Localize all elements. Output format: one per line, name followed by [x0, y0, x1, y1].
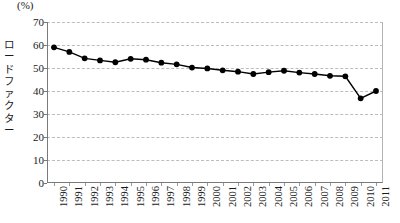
data-point-marker: [143, 57, 149, 63]
x-tick-label: 2005: [288, 186, 299, 207]
load-factor-line-chart: (%) ロードファクター 010203040506070 19901991199…: [0, 0, 400, 223]
data-point-marker: [97, 58, 103, 64]
data-point-marker: [128, 56, 134, 62]
data-point-marker: [266, 69, 272, 75]
x-tick-label: 1992: [89, 186, 100, 207]
x-tick-label: 1996: [150, 186, 161, 207]
x-tick-label: 2000: [211, 186, 222, 207]
x-tick-label: 2011: [380, 186, 391, 207]
x-tick-label: 2003: [257, 186, 268, 207]
x-tick-label: 1997: [165, 186, 176, 207]
data-point-marker: [327, 73, 333, 79]
x-tick-label: 1990: [58, 186, 69, 207]
y-tick-label: 30: [20, 108, 44, 120]
y-axis-title-char: ク: [1, 99, 17, 111]
y-axis-title-char: ロ: [1, 38, 17, 50]
data-point-marker: [312, 71, 318, 77]
y-axis-title: ロードファクター: [1, 38, 17, 136]
y-tick-label: 20: [20, 131, 44, 143]
y-axis-title-char: ァ: [1, 87, 17, 99]
data-point-marker: [342, 73, 348, 79]
x-tick-label: 2001: [227, 186, 238, 207]
data-point-marker: [235, 69, 241, 75]
plot-area: [47, 22, 383, 183]
data-point-marker: [204, 66, 210, 72]
y-axis-title-char: ド: [1, 63, 17, 75]
x-tick-label: 1993: [104, 186, 115, 207]
data-point-marker: [296, 70, 302, 76]
y-axis-title-char: フ: [1, 75, 17, 87]
x-tick-label: 2006: [303, 186, 314, 207]
x-tick-label: 1998: [181, 186, 192, 207]
x-tick-label: 1991: [73, 186, 84, 207]
data-point-marker: [220, 67, 226, 73]
data-series: [47, 22, 383, 183]
x-tick-label: 1999: [196, 186, 207, 207]
y-tick-label: 40: [20, 85, 44, 97]
y-tick-label: 10: [20, 154, 44, 166]
y-tick-label: 50: [20, 62, 44, 74]
data-point-marker: [82, 55, 88, 61]
x-tick-label: 2004: [273, 186, 284, 207]
data-point-marker: [250, 71, 256, 77]
y-axis-title-char: ー: [1, 124, 17, 136]
y-axis-title-char: ー: [1, 50, 17, 62]
data-point-marker: [112, 59, 118, 65]
x-tick-label: 2008: [334, 186, 345, 207]
data-point-marker: [174, 61, 180, 67]
data-point-marker: [158, 60, 164, 66]
data-point-marker: [358, 95, 364, 101]
x-tick-label: 1994: [119, 186, 130, 207]
data-point-marker: [66, 49, 72, 55]
y-tick-label: 60: [20, 39, 44, 51]
x-axis-tick-labels: 1990199119921993199419951996199719981999…: [47, 183, 383, 223]
data-point-marker: [281, 68, 287, 74]
data-point-marker: [373, 88, 379, 94]
x-tick-label: 2002: [242, 186, 253, 207]
y-axis-tick-labels: 010203040506070: [20, 0, 44, 223]
x-tick-label: 1995: [135, 186, 146, 207]
y-tick-label: 70: [20, 16, 44, 28]
x-tick-label: 2009: [349, 186, 360, 207]
x-tick-label: 2007: [319, 186, 330, 207]
y-tick-label: 0: [20, 177, 44, 189]
y-axis-title-char: タ: [1, 112, 17, 124]
series-line: [54, 47, 376, 98]
x-tick-label: 2010: [365, 186, 376, 207]
data-point-marker: [189, 65, 195, 71]
data-point-marker: [51, 44, 57, 50]
